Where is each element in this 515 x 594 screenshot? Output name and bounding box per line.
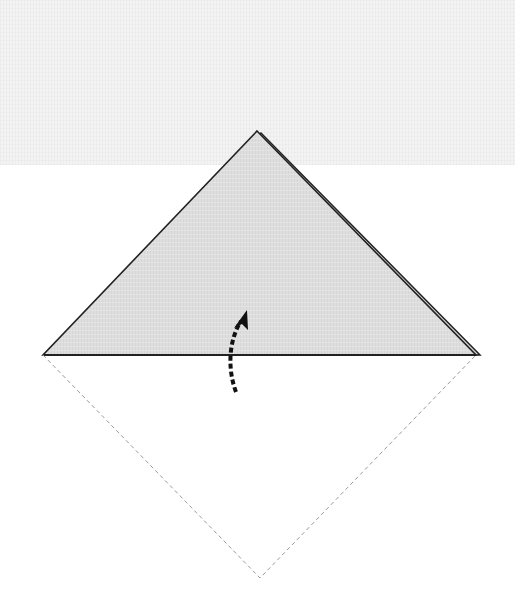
unfolded-outline [43, 355, 476, 578]
fold-diagram [0, 0, 515, 594]
folded-triangle [43, 131, 476, 355]
